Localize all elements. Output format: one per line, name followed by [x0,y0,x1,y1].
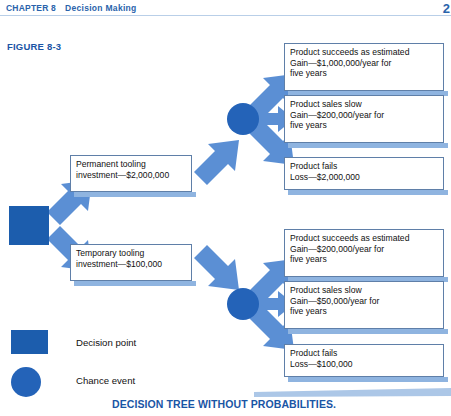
shadow-temp-slow [288,329,448,334]
node-temp-fails-line2: Loss—$100,000 [290,359,439,370]
shadow-temporary [74,281,196,286]
node-perm-slow-line3: five years [290,120,439,131]
node-temp-succeeds-line2: Gain—$200,000/year for [290,244,439,255]
node-perm-succeeds: Product succeeds as estimated Gain—$1,00… [284,43,444,91]
node-perm-slow-line2: Gain—$200,000/year for [290,110,439,121]
shadow-perm-slow [288,143,448,148]
arrow-permanent-to-chance [194,140,239,185]
chance-event-upper-node [227,103,259,135]
node-temp-slow-line1: Product sales slow [290,285,439,296]
node-temp-fails: Product fails Loss—$100,000 [284,344,444,377]
node-temp-succeeds-line3: five years [290,254,439,265]
figure-page: CHAPTER 8Decision Making 2 FIGURE 8-3 [0,0,451,416]
node-perm-fails: Product fails Loss—$2,000,000 [284,157,444,190]
node-perm-fails-line1: Product fails [290,161,439,172]
decision-point-legend-label: Decision point [76,337,136,348]
figure-caption: DECISION TREE WITHOUT PROBABILITIES. [112,398,336,410]
node-temp-slow-line2: Gain—$50,000/year for [290,296,439,307]
node-temporary-line1: Temporary tooling [76,248,187,259]
node-perm-fails-line2: Loss—$2,000,000 [290,172,439,183]
node-temp-succeeds-line1: Product succeeds as estimated [290,233,439,244]
node-temp-succeeds: Product succeeds as estimated Gain—$200,… [284,229,444,277]
node-temporary-line2: investment—$100,000 [76,259,187,270]
chance-event-legend-label: Chance event [76,375,135,386]
node-perm-succeeds-line3: five years [290,68,439,79]
decision-point-legend-icon [11,330,48,354]
caption-flourish [254,388,451,397]
node-temporary-tooling: Temporary tooling investment—$100,000 [70,244,192,281]
shadow-temp-fails [288,377,448,382]
chance-event-legend-icon [11,367,41,397]
decision-point-node [9,206,49,245]
node-temp-slow-line3: five years [290,306,439,317]
node-perm-slow: Product sales slow Gain—$200,000/year fo… [284,95,444,143]
node-permanent-tooling: Permanent tooling investment—$2,000,000 [70,155,192,192]
arrow-temporary-to-chance [194,245,239,290]
node-temp-slow: Product sales slow Gain—$50,000/year for… [284,281,444,329]
shadow-perm-fails [288,190,448,195]
node-perm-succeeds-line1: Product succeeds as estimated [290,47,439,58]
node-temp-fails-line1: Product fails [290,348,439,359]
node-perm-succeeds-line2: Gain—$1,000,000/year for [290,58,439,69]
chance-event-lower-node [227,288,259,320]
node-permanent-line2: investment—$2,000,000 [76,170,187,181]
node-perm-slow-line1: Product sales slow [290,99,439,110]
shadow-permanent [74,192,196,197]
node-permanent-line1: Permanent tooling [76,159,187,170]
